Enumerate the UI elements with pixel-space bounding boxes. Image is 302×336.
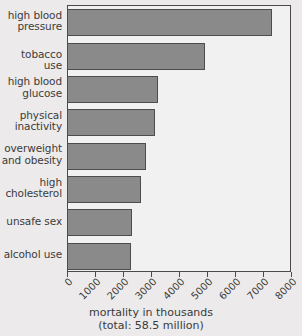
category-label-line: cholesterol: [0, 188, 62, 200]
plot-area: [67, 5, 291, 272]
bar: [67, 209, 132, 236]
bar: [67, 176, 141, 203]
category-axis-labels: high bloodpressuretobacco usehigh bloodg…: [0, 5, 65, 272]
x-axis-subtitle: (total: 58.5 million): [0, 319, 302, 332]
category-label-line: overweight: [0, 143, 62, 155]
bar: [67, 143, 146, 170]
bar-chart-figure: high bloodpressuretobacco usehigh bloodg…: [0, 0, 302, 336]
bar: [67, 43, 205, 70]
x-axis-caption: mortality in thousands (total: 58.5 mill…: [0, 306, 302, 332]
category-label: high bloodglucose: [0, 76, 62, 99]
category-label-line: inactivity: [0, 121, 62, 133]
category-label-line: and obesity: [0, 155, 62, 167]
category-label: tobacco use: [0, 49, 62, 72]
x-axis-title: mortality in thousands: [0, 306, 302, 319]
category-label: alcohol use: [0, 249, 62, 261]
category-label: physicalinactivity: [0, 110, 62, 133]
category-label-line: tobacco use: [0, 49, 62, 72]
bar: [67, 76, 158, 103]
x-axis-tick-labels: 010002000300040005000600070008000: [0, 276, 302, 306]
category-label-line: unsafe sex: [0, 216, 62, 228]
category-label-line: pressure: [0, 21, 62, 33]
category-label: overweightand obesity: [0, 143, 62, 166]
category-label: unsafe sex: [0, 216, 62, 228]
bar: [67, 243, 131, 270]
category-label: high bloodpressure: [0, 10, 62, 33]
bar: [67, 109, 155, 136]
category-label-line: alcohol use: [0, 249, 62, 261]
bar: [67, 9, 272, 36]
category-label-line: glucose: [0, 88, 62, 100]
category-label: highcholesterol: [0, 177, 62, 200]
